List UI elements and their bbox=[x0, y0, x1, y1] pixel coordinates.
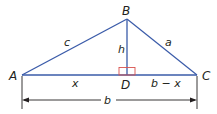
segment-label-x: x bbox=[71, 77, 79, 90]
vertex-label-b: B bbox=[122, 4, 130, 18]
segment-label-b-minus-x: b − x bbox=[151, 77, 181, 90]
triangle-diagram: A B C D c a h x b − x b bbox=[0, 0, 217, 114]
side-label-a: a bbox=[165, 36, 172, 49]
altitude-label-h: h bbox=[118, 43, 125, 56]
dimension-label-b: b bbox=[104, 94, 111, 107]
vertex-label-c: C bbox=[202, 69, 211, 83]
arrowhead-left-icon bbox=[22, 98, 29, 103]
side-a bbox=[127, 19, 197, 75]
side-c bbox=[22, 19, 127, 75]
vertex-label-d: D bbox=[121, 78, 130, 92]
vertex-label-a: A bbox=[8, 69, 17, 83]
arrowhead-right-icon bbox=[190, 98, 197, 103]
side-label-c: c bbox=[64, 36, 70, 49]
